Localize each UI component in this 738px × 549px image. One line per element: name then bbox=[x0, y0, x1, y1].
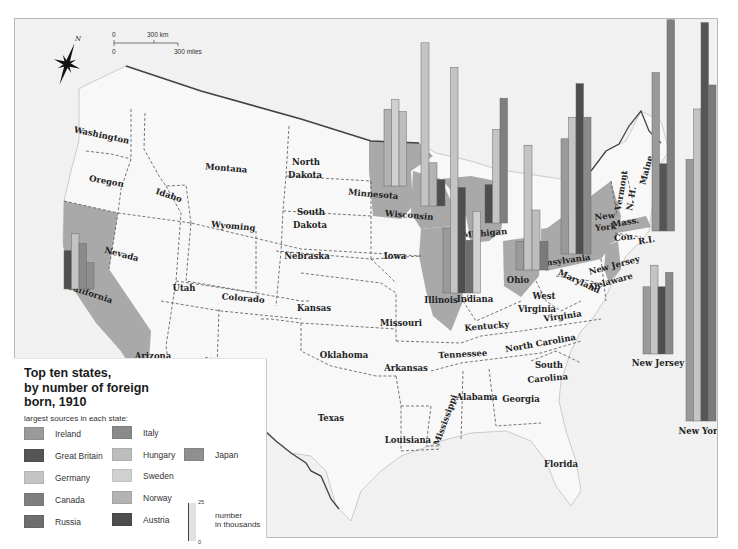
bar-russia bbox=[466, 240, 474, 293]
legend-title: Top ten states, by number of foreign bor… bbox=[24, 366, 174, 410]
bar-germany bbox=[524, 145, 532, 270]
legend-item-japan: Japan bbox=[184, 448, 238, 461]
state-label: Utah bbox=[172, 283, 195, 293]
swatch-japan bbox=[184, 448, 204, 461]
bar-canada bbox=[500, 98, 508, 223]
legend-title-line-1: Top ten states, bbox=[24, 366, 174, 381]
state-label: South bbox=[297, 207, 325, 217]
legend-item-russia: Russia bbox=[24, 515, 81, 528]
swatch-sweden bbox=[112, 469, 132, 482]
number-scale-key: 25 0 number in thousands bbox=[188, 499, 268, 549]
bar-austria bbox=[658, 287, 666, 354]
state-label: Texas bbox=[318, 413, 344, 423]
legend-title-line-2: by number of foreign bbox=[24, 381, 174, 396]
scale-key-label: number in thousands bbox=[215, 511, 260, 529]
bar-germany bbox=[399, 112, 407, 186]
swatch-canada bbox=[24, 493, 44, 506]
state-label: Georgia bbox=[502, 394, 540, 404]
scale-key-bar bbox=[188, 503, 196, 541]
swatch-italy bbox=[112, 426, 132, 439]
legend-item-germany: Germany bbox=[24, 471, 90, 484]
state-label: Louisiana bbox=[385, 435, 432, 445]
swatch-russia bbox=[24, 515, 44, 528]
state-label: North bbox=[292, 157, 320, 167]
scale-mi-label: 300 miles bbox=[174, 48, 203, 55]
state-label: Iowa bbox=[384, 251, 407, 261]
bar-canada bbox=[667, 20, 675, 231]
legend-item-great-britain: Great Britain bbox=[24, 449, 103, 462]
bar-germany bbox=[72, 234, 80, 289]
state-label: Missouri bbox=[380, 318, 423, 328]
bar-austria bbox=[64, 251, 72, 289]
bar-group-new-york: New York bbox=[679, 23, 718, 436]
bar-ireland bbox=[443, 228, 451, 293]
bar-germany bbox=[493, 129, 501, 223]
legend-item-sweden: Sweden bbox=[112, 469, 174, 482]
bar-sweden bbox=[473, 211, 481, 293]
legend-item-austria: Austria bbox=[112, 513, 169, 526]
bar-russia bbox=[701, 23, 709, 421]
bar-group-new-jersey: New Jersey bbox=[632, 265, 686, 368]
state-label: South bbox=[535, 360, 563, 370]
scale-key-max: 25 bbox=[198, 499, 204, 505]
bar-austria bbox=[540, 241, 548, 270]
state-label: Nebraska bbox=[284, 251, 330, 261]
bar-hungary bbox=[516, 241, 524, 270]
bar-austria bbox=[437, 180, 445, 206]
bar-italy bbox=[709, 85, 717, 421]
legend-subtitle: largest sources in each state: bbox=[24, 414, 128, 423]
bar-austria bbox=[576, 84, 584, 254]
bar-italy bbox=[584, 117, 592, 254]
swatch-great-britain bbox=[24, 449, 44, 462]
state-label: Kansas bbox=[297, 303, 331, 313]
state-label: Oklahoma bbox=[320, 350, 369, 360]
bar-group-michigan bbox=[485, 98, 508, 223]
bar-ireland bbox=[652, 73, 660, 231]
legend: Top ten states, by number of foreign bor… bbox=[14, 358, 267, 538]
state-label: Dakota bbox=[293, 220, 327, 230]
bar-group-label: New Jersey bbox=[632, 358, 686, 368]
bar-austria bbox=[458, 187, 466, 293]
scale-km-zero: 0 bbox=[112, 31, 116, 38]
compass-north-label: N bbox=[74, 35, 82, 43]
bar-group-massachusetts bbox=[652, 20, 675, 231]
legend-item-norway: Norway bbox=[112, 491, 172, 504]
state-label: Illinois bbox=[424, 295, 458, 305]
state-label: R.I. bbox=[637, 234, 655, 247]
bar-group-minnesota bbox=[384, 100, 407, 186]
swatch-norway bbox=[112, 491, 132, 504]
bar-group-wisconsin bbox=[421, 43, 445, 206]
bar-ireland bbox=[561, 139, 569, 254]
state-label: Alabama bbox=[455, 392, 498, 402]
bar-group-label: New York bbox=[679, 426, 718, 436]
scale-bar: 0 300 km 0 300 miles bbox=[112, 31, 203, 55]
bar-germany bbox=[421, 43, 429, 206]
bar-italy bbox=[666, 272, 674, 354]
scale-key-min: 0 bbox=[198, 539, 201, 545]
bar-japan bbox=[87, 263, 95, 289]
state-label: Florida bbox=[544, 459, 579, 469]
bar-great-britain bbox=[660, 164, 668, 231]
legend-item-hungary: Hungary bbox=[112, 448, 175, 461]
legend-item-canada: Canada bbox=[24, 493, 85, 506]
scale-km-label: 300 km bbox=[147, 31, 168, 38]
bar-germany bbox=[451, 67, 459, 293]
legend-item-ireland: Ireland bbox=[24, 427, 81, 440]
bar-ireland bbox=[643, 287, 651, 354]
bar-norway bbox=[429, 163, 437, 206]
bar-hungary bbox=[532, 210, 540, 270]
state-label: Con. bbox=[614, 231, 636, 243]
swatch-ireland bbox=[24, 427, 44, 440]
state-label: Arkansas bbox=[383, 363, 428, 373]
bar-germany bbox=[694, 109, 702, 421]
state-label: Dakota bbox=[288, 170, 322, 180]
bar-group-pennsylvania bbox=[561, 84, 591, 254]
compass-rose-icon: N bbox=[53, 35, 82, 85]
swatch-germany bbox=[24, 471, 44, 484]
bar-austria bbox=[485, 185, 493, 223]
bar-germany bbox=[569, 117, 577, 254]
scale-mi-zero: 0 bbox=[112, 48, 116, 55]
bar-italy bbox=[79, 243, 87, 289]
swatch-hungary bbox=[112, 448, 132, 461]
bar-norway bbox=[384, 109, 392, 186]
